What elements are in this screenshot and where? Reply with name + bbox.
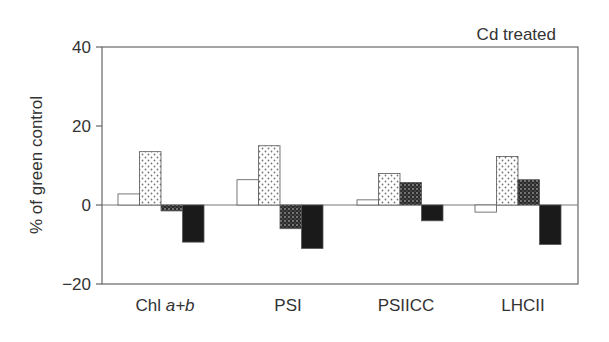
bar xyxy=(183,205,205,242)
x-axis-labels: Chl a+bPSIPSIICCLHCII xyxy=(135,296,544,315)
bar xyxy=(497,156,519,205)
bar xyxy=(118,194,140,205)
bar xyxy=(161,205,183,211)
bar-chart: −2002040 Chl a+bPSIPSIICCLHCII Cd treate… xyxy=(0,0,609,342)
bar-group xyxy=(118,152,204,242)
x-category-label: Chl a+b xyxy=(135,296,194,315)
bar xyxy=(280,205,302,229)
bars xyxy=(118,146,561,249)
y-tick-label: −20 xyxy=(62,275,91,294)
bar-group xyxy=(475,156,561,244)
bar xyxy=(540,205,562,245)
bar xyxy=(379,173,401,205)
y-tick-label: 20 xyxy=(72,117,91,136)
y-tick-label: 0 xyxy=(82,196,91,215)
bar xyxy=(140,152,162,205)
y-axis-label: % of green control xyxy=(27,96,46,234)
y-axis: −2002040 xyxy=(62,38,102,294)
bar xyxy=(259,146,281,205)
x-category-label: PSIICC xyxy=(378,296,435,315)
bar-group xyxy=(357,173,443,220)
bar xyxy=(400,182,422,205)
x-category-label: PSI xyxy=(274,296,301,315)
bar-group xyxy=(237,146,323,249)
bar xyxy=(302,205,324,248)
bar xyxy=(422,205,444,221)
bar xyxy=(237,180,259,205)
y-tick-label: 40 xyxy=(72,38,91,57)
bar xyxy=(475,205,497,212)
bar xyxy=(357,200,379,205)
x-category-label: LHCII xyxy=(501,296,544,315)
bar xyxy=(518,180,540,205)
chart-title: Cd treated xyxy=(477,25,556,44)
